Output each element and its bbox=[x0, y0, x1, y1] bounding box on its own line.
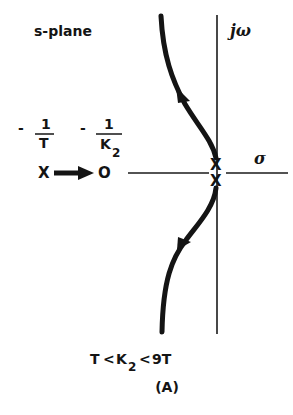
zero-label-num: 1 bbox=[104, 116, 114, 132]
zero-label-sign: - bbox=[80, 120, 86, 136]
upper-branch-arrow-icon bbox=[176, 87, 190, 103]
pole-lower: X bbox=[210, 172, 222, 190]
condition-left: T bbox=[90, 351, 100, 367]
zero-marker: O bbox=[98, 164, 111, 182]
pole-left-label-den: T bbox=[39, 135, 49, 151]
condition-op2: < bbox=[139, 351, 151, 367]
real-axis-branch-arrow-icon bbox=[78, 166, 94, 180]
plane-label: s-plane bbox=[34, 23, 92, 39]
real-axis-label: σ bbox=[254, 149, 266, 168]
upper-branch bbox=[161, 16, 216, 158]
zero-label-den-sub: 2 bbox=[112, 146, 120, 160]
condition-mid: K bbox=[116, 351, 128, 367]
imaginary-axis-label: jω bbox=[227, 21, 251, 40]
root-locus-diagram: s-plane jω σ X X X O - 1 T - 1 bbox=[0, 0, 293, 415]
pole-left-label-num: 1 bbox=[41, 116, 51, 132]
condition-right: 9T bbox=[152, 351, 172, 367]
figure-caption: (A) bbox=[155, 379, 179, 395]
condition-op1: < bbox=[103, 351, 115, 367]
pole-left-label-sign: - bbox=[18, 120, 24, 136]
zero-label-den: K bbox=[100, 136, 112, 152]
lower-branch bbox=[162, 188, 216, 332]
pole-left: X bbox=[38, 164, 50, 182]
condition-mid-sub: 2 bbox=[128, 360, 136, 374]
